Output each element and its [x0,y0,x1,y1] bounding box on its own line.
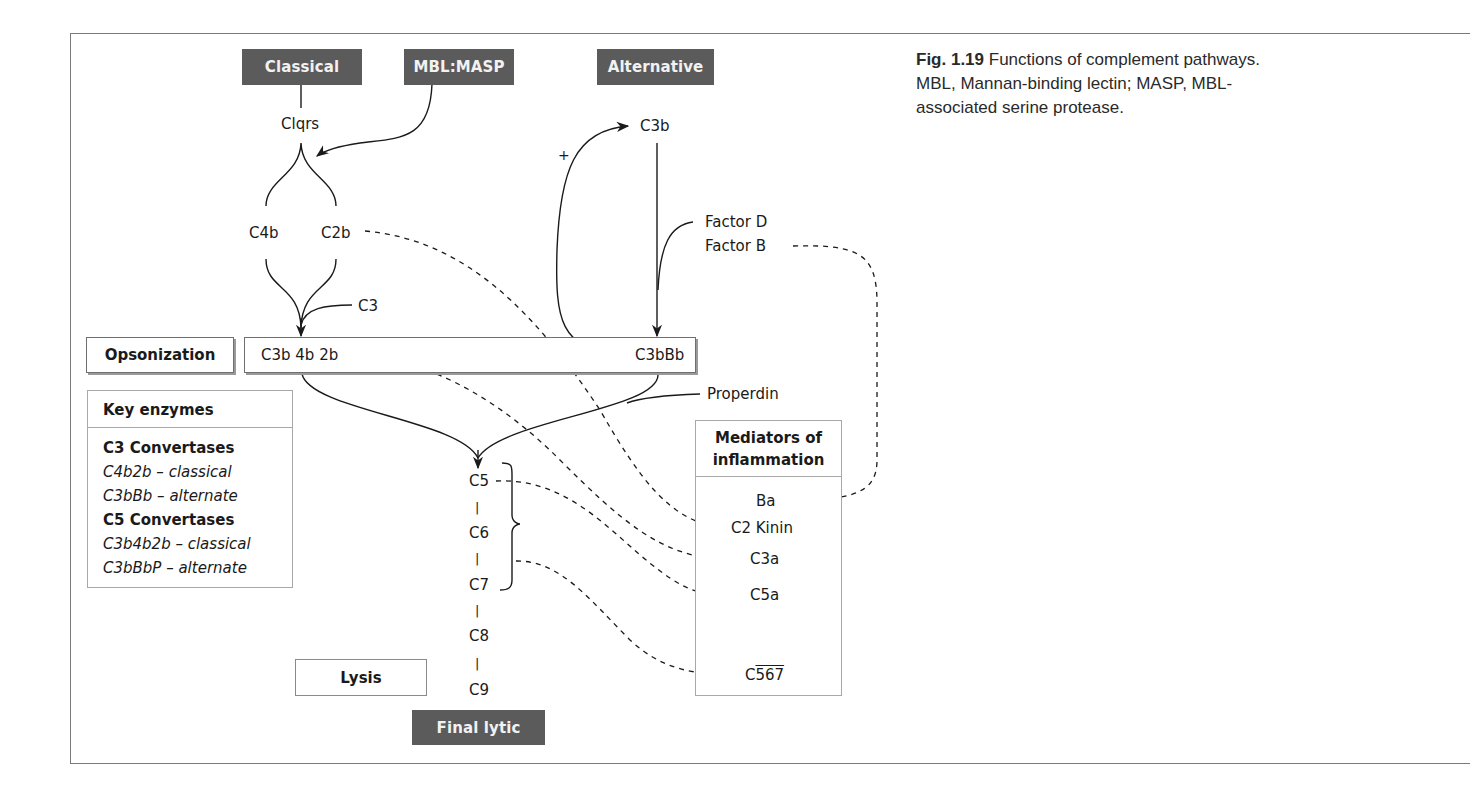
c8-label: C8 [469,627,489,645]
c567-prefix: C [745,666,755,684]
c567-overlined: 567 [755,666,784,684]
ba-label: Ba [756,492,775,510]
merge-to-c5 [302,374,658,458]
lysis-label: Lysis [340,669,381,687]
c3b4b2b-label: C3b 4b 2b [261,346,338,364]
chain-link-2: | [475,550,479,568]
c3b-label: C3b [640,117,670,135]
merge-c4b-c2b [266,259,336,328]
chain-link-4: | [475,655,479,673]
opsonization-label: Opsonization [105,346,216,364]
c5a-label: C5a [750,586,779,604]
mediators-title: Mediators of inflammation [696,421,841,477]
final-lytic-label: Final lytic [437,719,521,737]
c567-to-c567-dashed [516,561,718,674]
mbl-masp-pathway-box: MBL:MASP [404,49,514,85]
c3-join [301,305,352,325]
c3-convertase-bar: C3b 4b 2b C3bBb [244,337,696,373]
c7-label: C7 [469,576,489,594]
c3b4b2b-to-c3a-dashed [360,354,718,559]
c3b4b2b-classical: C3b4b2b – classical [103,532,277,556]
key-enzymes-list: C3 Convertases C4b2b – classical C3bBb –… [88,428,292,580]
c5-convertases-heading: C5 Convertases [103,508,277,532]
mediators-title-line1: Mediators of [696,427,841,449]
c4b2b-classical: C4b2b – classical [103,460,277,484]
opsonization-box: Opsonization [86,337,234,373]
chain-link-3: | [475,602,479,620]
c3bbb-alternate: C3bBb – alternate [103,484,277,508]
c2b-to-c2kinin-dashed [365,231,718,527]
factor-d-label: Factor D [705,213,767,231]
mediators-title-line2: inflammation [696,449,841,471]
chain-link-1: | [475,499,479,517]
split-c4b-c2b [266,143,336,206]
factor-b-label: Factor B [705,237,766,255]
final-lytic-pathway-box: Final lytic [412,710,545,745]
c3-convertases-heading: C3 Convertases [103,436,277,460]
key-enzymes-title: Key enzymes [88,391,292,428]
classical-pathway-box: Classical [242,49,362,85]
properdin-label: Properdin [707,385,779,403]
plus-sign: + [558,146,570,164]
classical-label: Classical [265,58,339,76]
mbl-masp-label: MBL:MASP [413,58,504,76]
mbl-to-join-arrow [317,84,432,156]
alternative-pathway-box: Alternative [597,49,714,85]
lysis-box: Lysis [295,659,427,696]
c9-label: C9 [469,681,489,699]
c3bbb-label: C3bBb [635,346,684,364]
c5-label: C5 [469,472,489,490]
c3a-label: C3a [750,550,779,568]
c1qrs-label: Clqrs [281,115,319,133]
c567-label: C567 [745,666,784,684]
c3bbbp-alternate: C3bBbP – alternate [103,556,277,580]
c2-kinin-label: C2 Kinin [731,519,793,537]
figure-caption: Fig. 1.19 Functions of complement pathwa… [916,48,1296,120]
figure-number: Fig. 1.19 [916,50,984,69]
c5-to-c5a-dashed [496,481,718,595]
c3-label: C3 [358,297,378,315]
alternative-label: Alternative [608,58,704,76]
c4b-label: C4b [249,224,279,242]
c6-label: C6 [469,524,489,542]
factor-join [658,222,693,290]
key-enzymes-panel: Key enzymes C3 Convertases C4b2b – class… [87,390,293,588]
c2b-label: C2b [321,224,351,242]
